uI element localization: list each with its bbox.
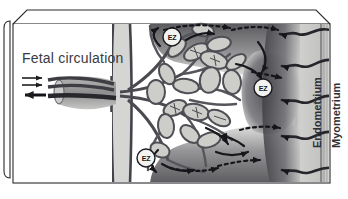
endometrium-label: Endometrium — [311, 77, 323, 148]
ez-marker-label: EZ — [259, 85, 268, 92]
frame-side-panel — [4, 21, 10, 178]
placental-circulation-illustration: EZ EZ EZ — [0, 0, 348, 199]
ez-marker-top: EZ — [163, 28, 181, 46]
ez-marker-label: EZ — [142, 155, 151, 162]
fetal-circulation-label: Fetal circulation — [22, 50, 123, 66]
myometrium-label: Myometrium — [330, 83, 342, 148]
umbilical-vein — [48, 95, 116, 98]
terminal-villus — [147, 80, 165, 104]
ez-marker-label: EZ — [168, 34, 177, 41]
ez-marker-bottom: EZ — [137, 149, 155, 167]
diagram-canvas: EZ EZ EZ Fetal circulation Endometrium M… — [0, 0, 348, 199]
caption-backdrop-bottom — [14, 112, 112, 183]
cord-cross-section — [54, 80, 64, 104]
ez-marker-middle: EZ — [254, 79, 272, 97]
decidual-plate — [262, 24, 300, 183]
frame-bevel-top — [13, 10, 330, 24]
illustration-body: EZ EZ EZ — [14, 23, 338, 183]
